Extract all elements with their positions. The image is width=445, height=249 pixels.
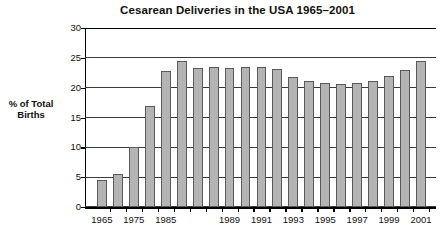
- x-tick-mark: [126, 207, 127, 212]
- bar: [145, 106, 155, 207]
- x-tick-mark: [349, 207, 350, 212]
- chart-title: Cesarean Deliveries in the USA 1965–2001: [0, 4, 445, 16]
- x-tick-mark: [301, 207, 302, 212]
- y-tick-mark: [81, 58, 85, 59]
- bar: [400, 70, 410, 207]
- y-tick-mark: [81, 88, 85, 89]
- x-tick-label: 1995: [315, 214, 336, 225]
- x-tick-mark: [110, 207, 111, 212]
- y-tick-label: 0: [58, 201, 81, 212]
- x-tick-mark: [158, 207, 159, 212]
- x-tick-label: 1975: [123, 214, 144, 225]
- x-tick-mark: [174, 207, 175, 212]
- x-tick-mark: [381, 207, 382, 212]
- x-tick-label: 2001: [410, 214, 431, 225]
- bar: [161, 71, 171, 207]
- x-axis-tick-labels: 1965197519851989199119931995199719992001: [85, 214, 436, 228]
- bar: [129, 147, 139, 207]
- bar: [272, 69, 282, 207]
- plot-area: 1965197519851989199119931995199719992001: [85, 28, 436, 207]
- x-tick-mark: [190, 207, 191, 212]
- y-tick-mark: [81, 118, 85, 119]
- x-tick-label: 1999: [379, 214, 400, 225]
- x-tick-mark: [142, 207, 143, 212]
- bar: [209, 67, 219, 207]
- bar: [241, 67, 251, 207]
- x-tick-label: 1989: [219, 214, 240, 225]
- x-axis-ticks: [85, 207, 436, 212]
- bar: [288, 77, 298, 207]
- bar: [113, 174, 123, 207]
- x-tick-mark: [285, 207, 286, 212]
- y-tick-label: 15: [58, 112, 81, 123]
- x-tick-mark: [253, 207, 254, 212]
- bar: [304, 81, 314, 207]
- chart-container: Cesarean Deliveries in the USA 1965–2001…: [0, 0, 445, 249]
- x-tick-mark: [222, 207, 223, 212]
- y-tick-mark: [81, 28, 85, 29]
- x-tick-label: 1985: [155, 214, 176, 225]
- bar: [97, 180, 107, 207]
- bar: [320, 83, 330, 207]
- x-tick-label: 1991: [251, 214, 272, 225]
- x-tick-label: 1965: [91, 214, 112, 225]
- y-tick-label: 10: [58, 141, 81, 152]
- x-tick-mark: [206, 207, 207, 212]
- bar: [257, 67, 267, 207]
- y-tick-mark: [81, 207, 85, 208]
- y-tick-label: 25: [58, 52, 81, 63]
- y-axis-label: % of Total Births: [2, 98, 60, 120]
- x-tick-mark: [269, 207, 270, 212]
- y-tick-label: 20: [58, 82, 81, 93]
- bar-series: [85, 28, 436, 207]
- x-tick-label: 1993: [283, 214, 304, 225]
- y-tick-mark: [81, 147, 85, 148]
- bar: [177, 61, 187, 207]
- x-tick-mark: [238, 207, 239, 212]
- x-tick-mark: [317, 207, 318, 212]
- x-tick-mark: [429, 207, 430, 212]
- x-tick-mark: [397, 207, 398, 212]
- bar: [336, 84, 346, 208]
- bar: [416, 61, 426, 207]
- y-tick-label: 5: [58, 171, 81, 182]
- x-tick-mark: [365, 207, 366, 212]
- bar: [384, 76, 394, 207]
- x-tick-mark: [413, 207, 414, 212]
- bar: [193, 68, 203, 207]
- x-tick-label: 1997: [347, 214, 368, 225]
- bar: [368, 81, 378, 207]
- bar: [352, 83, 362, 207]
- x-tick-mark: [333, 207, 334, 212]
- y-tick-mark: [81, 177, 85, 178]
- bar: [225, 68, 235, 207]
- y-tick-label: 30: [58, 22, 81, 33]
